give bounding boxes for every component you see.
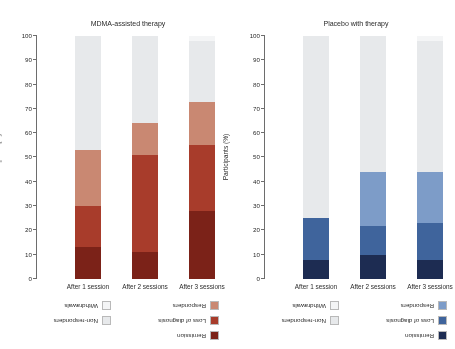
legend-item-remission[interactable]: Remission <box>115 328 219 343</box>
legend-column-right: Non-responders Withdrawals <box>7 298 111 343</box>
y-tick-mark <box>261 181 265 182</box>
legend-item-non-responders[interactable]: Non-responders <box>7 313 111 328</box>
y-tick-mark <box>261 108 265 109</box>
x-axis-category-label: After 2 sessions <box>122 283 167 290</box>
y-tick-label: 80 <box>253 81 260 88</box>
x-axis-category-label: After 2 sessions <box>350 283 395 290</box>
legend-column-right: Non-responders Withdrawals <box>235 298 339 343</box>
bar-segment-withdrawals[interactable] <box>189 36 215 41</box>
y-tick-label: 90 <box>253 57 260 64</box>
legend-item-remission[interactable]: Remission <box>343 328 447 343</box>
y-tick-label: 80 <box>25 81 32 88</box>
bar-segment-non-responders[interactable] <box>360 36 386 172</box>
legend-label-responders: Responders <box>173 302 206 308</box>
y-tick-mark <box>33 229 37 230</box>
bar-after-2-sessions[interactable]: After 2 sessions <box>132 36 158 279</box>
legend-item-withdrawals[interactable]: Withdrawals <box>7 298 111 313</box>
legend-label-remission: Remission <box>405 332 434 338</box>
figure-canvas: Remission Loss of diagnosis Responders N… <box>0 0 455 349</box>
legend-item-loss-of-diagnosis[interactable]: Loss of diagnosis <box>115 313 219 328</box>
bar-segment-loss-of-diagnosis[interactable] <box>75 206 101 247</box>
bar-after-1-session[interactable]: After 1 session <box>303 36 329 279</box>
swatch-non-responders-icon <box>330 316 339 325</box>
x-axis-category-label: After 1 session <box>67 283 109 290</box>
y-tick-label: 70 <box>253 105 260 112</box>
y-axis-line <box>37 36 38 279</box>
swatch-loss-of-diagnosis-icon <box>438 316 447 325</box>
bar-segment-non-responders[interactable] <box>189 41 215 102</box>
bar-segment-remission[interactable] <box>132 252 158 279</box>
bar-segment-remission[interactable] <box>417 260 443 279</box>
y-tick-label: 40 <box>253 178 260 185</box>
swatch-withdrawals-icon <box>330 301 339 310</box>
bar-segment-loss-of-diagnosis[interactable] <box>417 223 443 259</box>
bar-segment-responders[interactable] <box>132 124 158 156</box>
legend-item-responders[interactable]: Responders <box>343 298 447 313</box>
bar-segment-responders[interactable] <box>360 172 386 225</box>
y-tick: 30 <box>261 205 265 206</box>
bar-segment-non-responders[interactable] <box>417 41 443 172</box>
bar-after-1-session[interactable]: After 1 session <box>75 36 101 279</box>
y-tick-label: 70 <box>25 105 32 112</box>
bar-after-3-sessions[interactable]: After 3 sessions <box>189 36 215 279</box>
bar-segment-remission[interactable] <box>303 260 329 279</box>
legend-label-non-responders: Non-responders <box>282 317 326 323</box>
y-tick: 100 <box>33 35 37 36</box>
bar-segment-loss-of-diagnosis[interactable] <box>132 155 158 252</box>
bar-segment-non-responders[interactable] <box>303 36 329 218</box>
y-tick: 70 <box>261 108 265 109</box>
x-axis-category-label: After 1 session <box>295 283 337 290</box>
legend-label-responders: Responders <box>401 302 434 308</box>
bar-segment-remission[interactable] <box>75 247 101 279</box>
legend-label-withdrawals: Withdrawals <box>64 302 98 308</box>
swatch-non-responders-icon <box>102 316 111 325</box>
bar-segment-withdrawals[interactable] <box>417 36 443 41</box>
bar-segment-non-responders[interactable] <box>132 36 158 123</box>
y-tick: 20 <box>33 229 37 230</box>
y-tick-label: 30 <box>25 203 32 210</box>
y-tick-mark <box>33 132 37 133</box>
legend-label-remission: Remission <box>177 332 206 338</box>
legend-spacer <box>235 328 339 343</box>
y-tick: 0 <box>261 278 265 279</box>
y-tick: 50 <box>33 157 37 158</box>
bar-after-2-sessions[interactable]: After 2 sessions <box>360 36 386 279</box>
bar-segment-responders[interactable] <box>417 172 443 223</box>
y-axis-title: Participants (%) <box>0 134 1 181</box>
legend-column-left: Remission Loss of diagnosis Responders <box>343 298 447 343</box>
y-tick: 80 <box>261 84 265 85</box>
bar-segment-remission[interactable] <box>189 211 215 279</box>
y-tick: 60 <box>261 132 265 133</box>
y-tick-label: 20 <box>253 227 260 234</box>
bar-segment-responders[interactable] <box>75 150 101 206</box>
panel-mdma: Remission Loss of diagnosis Responders N… <box>0 0 227 349</box>
y-axis-title: Participants (%) <box>222 134 229 181</box>
y-tick: 10 <box>33 254 37 255</box>
bar-segment-loss-of-diagnosis[interactable] <box>189 145 215 211</box>
legend-item-non-responders[interactable]: Non-responders <box>235 313 339 328</box>
legend-label-withdrawals: Withdrawals <box>292 302 326 308</box>
y-tick-mark <box>33 181 37 182</box>
plot-area-mdma: 0102030405060708090100 Participants (%) … <box>37 36 219 279</box>
y-tick-label: 10 <box>253 251 260 258</box>
y-tick-mark <box>261 132 265 133</box>
bar-segment-loss-of-diagnosis[interactable] <box>360 226 386 255</box>
bar-segment-remission[interactable] <box>360 255 386 279</box>
y-tick: 60 <box>33 132 37 133</box>
y-tick-label: 90 <box>25 57 32 64</box>
y-tick: 40 <box>33 181 37 182</box>
legend-item-withdrawals[interactable]: Withdrawals <box>235 298 339 313</box>
y-tick-label: 30 <box>253 203 260 210</box>
y-tick-label: 0 <box>257 276 260 283</box>
y-tick-mark <box>261 205 265 206</box>
legend-item-responders[interactable]: Responders <box>115 298 219 313</box>
legend-item-loss-of-diagnosis[interactable]: Loss of diagnosis <box>343 313 447 328</box>
bar-segment-loss-of-diagnosis[interactable] <box>303 218 329 259</box>
bar-after-3-sessions[interactable]: After 3 sessions <box>417 36 443 279</box>
y-tick-mark <box>261 157 265 158</box>
y-tick: 70 <box>33 108 37 109</box>
panel-title-placebo: Placebo with therapy <box>265 20 447 27</box>
bar-segment-non-responders[interactable] <box>75 36 101 150</box>
y-tick: 10 <box>261 254 265 255</box>
bar-segment-responders[interactable] <box>189 102 215 146</box>
